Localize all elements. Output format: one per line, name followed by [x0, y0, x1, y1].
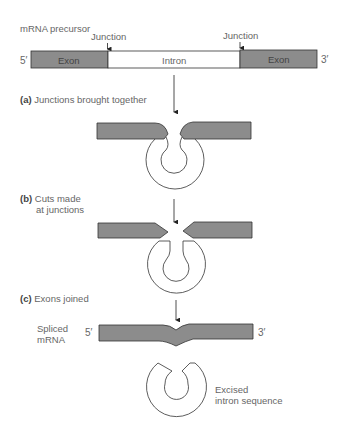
spliced-three-prime: 3′ [258, 327, 265, 338]
intron-label: Intron [162, 55, 186, 66]
junction-left-label: Junction [91, 31, 126, 42]
step-b-text-1: Cuts made [35, 193, 81, 204]
step-c-label: (c) Exons joined [20, 293, 89, 304]
three-prime-label: 3′ [321, 54, 328, 65]
spliced-mrna-shape [99, 324, 253, 346]
step-a-text: Junctions brought together [34, 94, 147, 105]
spliced-label-1: Spliced [37, 323, 68, 334]
precursor-title: mRNA precursor [20, 23, 90, 34]
five-prime-label: 5′ [20, 55, 27, 66]
splicing-diagram: mRNA precursor Junction Junction 5′ 3′ E… [0, 0, 346, 432]
exon-right-label: Exon [268, 54, 290, 65]
panel-b-shape [98, 222, 252, 293]
exon-left-label: Exon [58, 55, 80, 66]
excised-label-1: Excised [215, 384, 248, 395]
spliced-label-2: mRNA [37, 334, 65, 345]
step-a-label: (a) Junctions brought together [20, 94, 147, 105]
step-b-label: (b) Cuts made [20, 193, 81, 204]
excised-intron-shape [147, 363, 207, 417]
spliced-five-prime: 5′ [85, 327, 92, 338]
step-b-text-2: at junctions [36, 204, 84, 215]
junction-right-label: Junction [223, 30, 258, 41]
panel-a-shape [97, 122, 251, 189]
step-a-letter: (a) [20, 94, 32, 105]
step-b-letter: (b) [20, 193, 32, 204]
step-c-letter: (c) [20, 293, 32, 304]
step-c-text: Exons joined [34, 293, 88, 304]
excised-label-2: intron sequence [215, 395, 283, 406]
